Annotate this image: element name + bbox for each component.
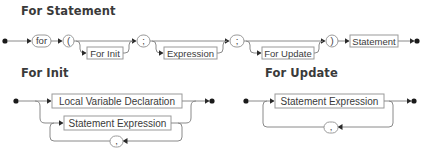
for-update-diagram: Statement Expression , bbox=[243, 94, 416, 133]
start-dot-icon bbox=[243, 98, 248, 103]
nonterminal-expression: Expression bbox=[164, 47, 217, 59]
terminal-semicolon-2: ; bbox=[230, 35, 244, 47]
terminal-close-paren-label: ) bbox=[330, 35, 333, 46]
railroad-diagrams: for ( For Init ; Expression bbox=[0, 0, 429, 154]
nonterminal-statement-expression: Statement Expression bbox=[64, 116, 171, 130]
start-dot-icon bbox=[13, 98, 18, 103]
terminal-open-paren: ( bbox=[63, 35, 74, 47]
terminal-for-label: for bbox=[36, 35, 47, 46]
terminal-comma-label: , bbox=[330, 121, 333, 132]
terminal-semicolon-1-label: ; bbox=[142, 35, 145, 46]
nonterminal-expression-label: Expression bbox=[167, 48, 214, 59]
end-dot-icon bbox=[411, 98, 416, 103]
nonterminal-for-init: For Init bbox=[87, 47, 123, 59]
nonterminal-statement-expression-label: Statement Expression bbox=[69, 118, 167, 129]
terminal-comma-label: , bbox=[115, 135, 118, 146]
end-dot-icon bbox=[209, 98, 214, 103]
terminal-for: for bbox=[32, 35, 51, 47]
terminal-comma: , bbox=[324, 121, 338, 133]
terminal-semicolon-2-label: ; bbox=[236, 35, 239, 46]
nonterminal-statement-expression-label: Statement Expression bbox=[281, 96, 379, 107]
nonterminal-for-update: For Update bbox=[262, 47, 314, 59]
nonterminal-local-variable-declaration: Local Variable Declaration bbox=[52, 94, 182, 108]
nonterminal-statement-label: Statement bbox=[352, 36, 396, 47]
nonterminal-for-init-label: For Init bbox=[90, 48, 120, 59]
nonterminal-statement: Statement bbox=[350, 35, 398, 47]
for-init-diagram: Local Variable Declaration Statement Exp… bbox=[13, 94, 214, 147]
end-dot-icon bbox=[414, 38, 419, 43]
terminal-semicolon-1: ; bbox=[137, 35, 150, 47]
nonterminal-statement-expression: Statement Expression bbox=[275, 94, 384, 108]
terminal-close-paren: ) bbox=[326, 35, 338, 47]
for-statement-diagram: for ( For Init ; Expression bbox=[2, 35, 419, 59]
nonterminal-for-update-label: For Update bbox=[264, 48, 312, 59]
terminal-comma: , bbox=[110, 135, 123, 147]
nonterminal-local-variable-declaration-label: Local Variable Declaration bbox=[59, 96, 175, 107]
start-dot-icon bbox=[2, 38, 7, 43]
